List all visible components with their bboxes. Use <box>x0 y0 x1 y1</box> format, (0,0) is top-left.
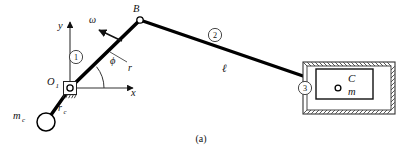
pin-joint-c <box>335 85 341 91</box>
figure-container: 1 2 3 y x O 1 B ω r ϕ ℓ m c <box>0 0 403 150</box>
link-badge-crank-label: 1 <box>74 53 78 62</box>
link-badge-rod: 2 <box>208 28 221 41</box>
counterweight-mass-circle <box>37 113 55 131</box>
link-badge-slider: 3 <box>298 81 311 94</box>
counterweight-mass-label: m <box>13 110 21 121</box>
counterweight-mass-label-group: m c <box>13 110 26 124</box>
slider-mass-label: m <box>348 86 356 97</box>
slider-block-rect <box>316 69 373 99</box>
x-axis-label: x <box>130 87 136 98</box>
origin-label-group: O 1 <box>47 76 59 90</box>
origin-label: O <box>47 76 55 87</box>
link-badge-rod-label: 2 <box>213 31 217 40</box>
crank-length-label: r <box>128 62 132 73</box>
point-b-label: B <box>133 3 140 14</box>
angle-phi-label: ϕ <box>110 55 116 66</box>
y-axis-label: y <box>57 20 63 31</box>
counterweight-mass-subscript: c <box>22 116 26 124</box>
counterweight-radius-label-group: r c <box>58 102 67 115</box>
rod-length-label: ℓ <box>222 62 227 74</box>
omega-label: ω <box>89 14 96 25</box>
pin-joint-b <box>137 17 143 23</box>
slider-block-group <box>316 69 373 99</box>
counterweight-radius-label: r <box>58 102 62 113</box>
figure-caption: (a) <box>195 133 206 145</box>
slider-point-label: C <box>348 72 356 84</box>
pivot-o1-joint-circle <box>67 85 73 91</box>
link-badge-crank: 1 <box>69 50 82 63</box>
angle-phi-arc <box>97 67 105 88</box>
mechanism-diagram: 1 2 3 y x O 1 B ω r ϕ ℓ m c <box>0 0 403 150</box>
origin-subscript: 1 <box>56 82 60 90</box>
counterweight-radius-subscript: c <box>64 108 67 115</box>
omega-arrow <box>99 30 122 41</box>
link-badge-slider-label: 3 <box>303 84 307 93</box>
